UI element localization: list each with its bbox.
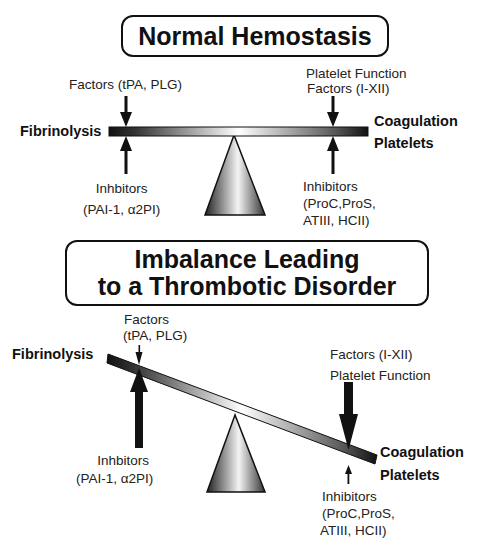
label-line: (ProC,ProS,	[303, 195, 376, 212]
arrow-up-small-icon	[345, 465, 352, 484]
fulcrum-icon	[205, 135, 265, 215]
label-line: Coagulation	[380, 441, 464, 464]
label-left-inhibitors: Inhbitors (PAI-1, α2PI)	[83, 178, 160, 220]
label-line: Inhibitors	[320, 488, 395, 505]
label-line: ATIII, HCII)	[303, 212, 376, 229]
arrow-up-large-icon	[130, 368, 148, 448]
label-line: (PAI-1, α2PI)	[83, 199, 160, 220]
balance-beam	[109, 127, 368, 136]
label-line: (ProC,ProS,	[320, 505, 395, 522]
label-line: Platelets	[380, 464, 464, 487]
label-left-factors: Factors (tPA, PLG)	[69, 76, 182, 93]
label-line: ATIII, HCII)	[320, 522, 395, 539]
label-fibrinolysis: Fibrinolysis	[12, 346, 93, 362]
label-fibrinolysis: Fibrinolysis	[20, 123, 101, 139]
label-coagulation-platelets: Coagulation Platelets	[380, 441, 464, 487]
label-line: Inhbitors	[93, 452, 153, 470]
label-coagulation-platelets: Coagulation Platelets	[374, 110, 458, 154]
arrow-down-icon	[327, 96, 339, 127]
arrow-down-large-icon	[339, 382, 358, 450]
title-normal-hemostasis: Normal Hemostasis	[121, 15, 389, 57]
label-right-inhibitors: Inhibitors (ProC,ProS, ATIII, HCII)	[303, 178, 376, 229]
title-text: to a Thrombotic Disorder	[98, 273, 397, 300]
label-right-factors: Factors (I-XII) Platelet Function	[330, 344, 431, 386]
label-line: Factors (I-XII)	[306, 81, 407, 96]
label-left-inhibitors: Inhbitors (PAI-1, α2PI)	[93, 452, 153, 488]
arrow-down-small-icon	[136, 345, 143, 365]
label-line: (tPA, PLG)	[123, 328, 187, 344]
label-line: Coagulation	[374, 110, 458, 132]
title-imbalance-thrombotic: Imbalance Leading to a Thrombotic Disord…	[65, 240, 429, 306]
label-right-inhibitors: Inhibitors (ProC,ProS, ATIII, HCII)	[320, 488, 395, 539]
label-line: Platelet Function	[306, 66, 407, 81]
label-right-factors: Platelet Function Factors (I-XII)	[306, 66, 407, 96]
arrow-down-icon	[120, 96, 132, 127]
title-text: Imbalance Leading	[134, 246, 359, 273]
label-line: Factors (I-XII)	[330, 344, 431, 365]
label-line: (PAI-1, α2PI)	[76, 470, 153, 488]
title-text: Normal Hemostasis	[138, 23, 371, 50]
label-line: Inhbitors	[83, 178, 160, 199]
label-line: Platelets	[374, 132, 458, 154]
label-line: Factors	[123, 312, 187, 328]
arrow-up-icon	[120, 136, 132, 174]
label-line: Platelet Function	[330, 365, 431, 386]
label-left-factors: Factors (tPA, PLG)	[123, 312, 187, 344]
label-line: Inhibitors	[303, 178, 376, 195]
fulcrum-icon	[207, 415, 265, 492]
arrow-up-icon	[327, 136, 339, 174]
